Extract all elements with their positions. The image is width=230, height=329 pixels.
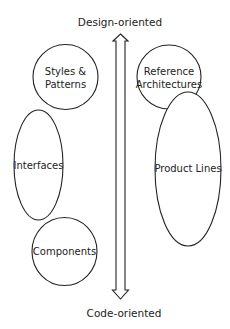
product-lines-label: Product Lines [154,163,221,174]
node-product-lines: Product Lines [154,92,221,246]
reference-label-line1: Reference [144,66,194,77]
node-components: Components [32,218,97,286]
double-arrow-icon [113,34,129,299]
styles-label-line2: Patterns [45,79,86,90]
styles-label-line1: Styles & [45,66,87,77]
design-oriented-label: Design-oriented [78,16,162,28]
interfaces-label: Interfaces [14,160,64,171]
node-styles-patterns: Styles & Patterns [33,45,98,110]
components-label: Components [33,246,96,257]
node-interfaces: Interfaces [14,110,64,220]
code-oriented-label: Code-oriented [87,307,162,319]
reuse-spectrum-diagram: Design-oriented Styles & Patterns Interf… [0,0,230,329]
reference-label-line2: Architectures [136,79,202,90]
